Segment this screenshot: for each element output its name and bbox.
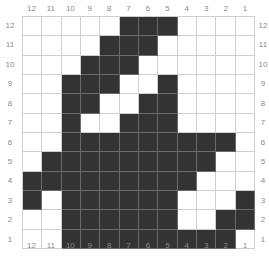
grid-cell	[197, 191, 216, 210]
grid-cell	[197, 152, 216, 171]
grid-cell	[158, 17, 177, 36]
grid-cell	[216, 152, 235, 171]
grid-cell	[23, 56, 42, 75]
grid-cell	[158, 114, 177, 133]
column-label-top: 12	[22, 4, 41, 14]
grid-cell	[120, 56, 139, 75]
row-label-left: 6	[2, 138, 18, 148]
grid-cell	[158, 56, 177, 75]
row-label-right: 9	[255, 79, 269, 89]
column-label-top: 4	[177, 4, 196, 14]
grid-cell	[81, 114, 100, 133]
grid-cell	[81, 210, 100, 229]
row-label-right: 5	[255, 157, 269, 167]
grid-cell	[216, 56, 235, 75]
grid-cell	[216, 114, 235, 133]
grid-cell	[158, 210, 177, 229]
row-label-left: 3	[2, 196, 18, 206]
grid-cell	[236, 191, 255, 210]
grid-cell	[62, 94, 81, 113]
grid-cell	[62, 172, 81, 191]
grid-cell	[197, 133, 216, 152]
grid-cell	[158, 75, 177, 94]
grid-cell	[178, 133, 197, 152]
grid-cell	[100, 75, 119, 94]
column-label-top: 6	[139, 4, 158, 14]
grid-cell	[62, 17, 81, 36]
grid-cell	[81, 191, 100, 210]
grid-cell	[42, 56, 61, 75]
grid-cell	[23, 172, 42, 191]
grid-cell	[139, 56, 158, 75]
grid-cell	[42, 191, 61, 210]
column-label-top: 9	[80, 4, 99, 14]
grid-cell	[197, 56, 216, 75]
grid-cell	[23, 191, 42, 210]
grid-cell	[120, 191, 139, 210]
grid-cell	[100, 210, 119, 229]
grid-cell	[62, 210, 81, 229]
column-label-bottom: 6	[139, 241, 158, 251]
grid-cell	[23, 133, 42, 152]
grid-cell	[62, 75, 81, 94]
column-label-bottom: 11	[41, 241, 60, 251]
grid-cell	[42, 114, 61, 133]
grid-cell	[236, 172, 255, 191]
grid-cell	[100, 191, 119, 210]
pixel-grid	[22, 16, 255, 249]
grid-cell	[178, 75, 197, 94]
grid-cell	[158, 133, 177, 152]
row-label-right: 1	[255, 235, 269, 245]
grid-cell	[216, 75, 235, 94]
column-label-top: 11	[41, 4, 60, 14]
row-label-left: 4	[2, 176, 18, 186]
grid-cell	[216, 172, 235, 191]
grid-cell	[81, 17, 100, 36]
grid-cell	[236, 210, 255, 229]
grid-cell	[158, 152, 177, 171]
grid-cell	[158, 191, 177, 210]
grid-cell	[139, 94, 158, 113]
row-label-right: 10	[255, 60, 269, 70]
grid-cell	[178, 94, 197, 113]
column-label-top: 1	[236, 4, 255, 14]
grid-cell	[120, 36, 139, 55]
grid-cell	[23, 75, 42, 94]
grid-cell	[236, 114, 255, 133]
grid-cell	[120, 133, 139, 152]
grid-cell	[236, 36, 255, 55]
grid-cell	[120, 210, 139, 229]
grid-cell	[178, 191, 197, 210]
grid-cell	[236, 152, 255, 171]
grid-cell	[158, 94, 177, 113]
grid-cell	[100, 152, 119, 171]
grid-cell	[120, 172, 139, 191]
grid-cell	[158, 172, 177, 191]
grid-cell	[178, 56, 197, 75]
grid-cell	[216, 133, 235, 152]
row-label-right: 6	[255, 138, 269, 148]
row-label-left: 10	[2, 60, 18, 70]
grid-cell	[139, 36, 158, 55]
column-label-top: 5	[158, 4, 177, 14]
grid-cell	[139, 75, 158, 94]
grid-cell	[100, 114, 119, 133]
grid-cell	[81, 56, 100, 75]
column-label-top: 10	[61, 4, 80, 14]
row-label-right: 4	[255, 176, 269, 186]
grid-cell	[81, 94, 100, 113]
grid-cell	[197, 94, 216, 113]
grid-cell	[120, 75, 139, 94]
grid-cell	[23, 17, 42, 36]
grid-cell	[236, 133, 255, 152]
grid-cell	[197, 75, 216, 94]
grid-cell	[23, 152, 42, 171]
grid-cell	[100, 56, 119, 75]
grid-cell	[120, 94, 139, 113]
row-label-right: 11	[255, 40, 269, 50]
column-label-top: 3	[197, 4, 216, 14]
grid-cell	[23, 210, 42, 229]
column-label-top: 2	[216, 4, 235, 14]
grid-cell	[23, 94, 42, 113]
column-label-bottom: 7	[119, 241, 138, 251]
